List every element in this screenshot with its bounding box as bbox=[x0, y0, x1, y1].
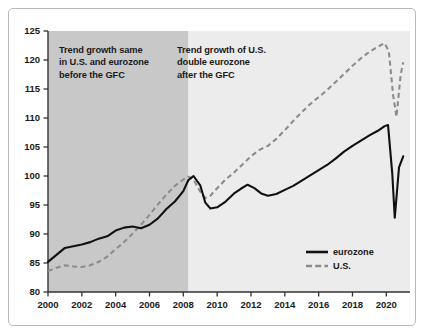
y-tick-label: 80 bbox=[29, 286, 40, 297]
legend-swatch-eurozone bbox=[306, 247, 328, 257]
x-tick-label: 2020 bbox=[376, 299, 397, 310]
x-tick-label: 2014 bbox=[274, 299, 296, 310]
annotation-post-gfc-line-3: after the GFC bbox=[177, 69, 285, 81]
x-tick-label: 2000 bbox=[37, 299, 58, 310]
x-tick-label: 2008 bbox=[173, 299, 194, 310]
y-tick-label: 85 bbox=[29, 257, 40, 268]
y-tick-label: 115 bbox=[25, 83, 41, 94]
annotation-post-gfc: Trend growth of U.S. double eurozone aft… bbox=[177, 44, 285, 81]
annotation-post-gfc-line-1: Trend growth of U.S. bbox=[177, 44, 285, 56]
annotation-post-gfc-line-2: double eurozone bbox=[177, 56, 285, 68]
legend-label-eurozone: eurozone bbox=[333, 247, 374, 257]
x-axis-ticks: 2000200220042006200820102012201420162018… bbox=[37, 292, 396, 310]
annotation-pre-gfc-line-2: in U.S. and eurozone bbox=[59, 56, 159, 68]
x-tick-label: 2016 bbox=[308, 299, 329, 310]
legend-label-us: U.S. bbox=[333, 261, 351, 271]
annotation-pre-gfc: Trend growth same in U.S. and eurozone b… bbox=[59, 44, 159, 81]
annotation-pre-gfc-line-1: Trend growth same bbox=[59, 44, 159, 56]
y-tick-label: 105 bbox=[24, 141, 41, 152]
x-tick-label: 2002 bbox=[71, 299, 92, 310]
x-tick-label: 2004 bbox=[105, 299, 127, 310]
chart-legend: eurozone U.S. bbox=[306, 246, 378, 274]
y-tick-label: 120 bbox=[24, 54, 40, 65]
y-tick-label: 100 bbox=[24, 170, 40, 181]
legend-item-us: U.S. bbox=[306, 260, 378, 271]
x-tick-label: 2012 bbox=[240, 299, 261, 310]
x-tick-label: 2018 bbox=[342, 299, 363, 310]
y-tick-label: 90 bbox=[29, 228, 40, 239]
legend-item-eurozone: eurozone bbox=[306, 246, 378, 257]
annotation-pre-gfc-line-3: before the GFC bbox=[59, 69, 159, 81]
y-tick-label: 95 bbox=[29, 199, 40, 210]
y-tick-label: 125 bbox=[24, 25, 41, 36]
chart-figure: 80859095100105110115120125 2000200220042… bbox=[0, 0, 426, 336]
y-tick-label: 110 bbox=[25, 112, 40, 123]
x-tick-label: 2010 bbox=[207, 299, 228, 310]
y-axis-ticks: 80859095100105110115120125 bbox=[24, 25, 48, 297]
x-tick-label: 2006 bbox=[139, 299, 160, 310]
legend-swatch-us bbox=[306, 261, 328, 271]
